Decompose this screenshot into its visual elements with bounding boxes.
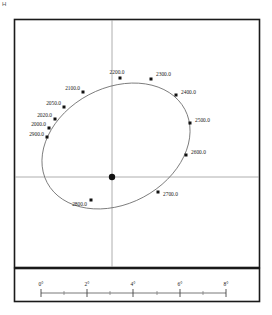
scale-tick-label: 2° xyxy=(85,281,90,287)
epoch-label: 2800.0 xyxy=(72,201,87,207)
epoch-label: 2050.0 xyxy=(46,100,61,106)
epoch-label: 2900.0 xyxy=(29,131,44,137)
epoch-marker xyxy=(46,136,49,139)
epoch-label: 2300.0 xyxy=(156,71,171,77)
orbit-figure: H 2000.02020.02050.02100.02200.02300.024… xyxy=(0,0,272,315)
scale-tick-label: 6° xyxy=(178,281,183,287)
epoch-marker xyxy=(185,154,188,157)
epoch-marker xyxy=(90,199,93,202)
orbit-diagram-svg: 2000.02020.02050.02100.02200.02300.02400… xyxy=(0,0,272,315)
epoch-label: 2100.0 xyxy=(65,85,80,91)
epoch-label: 2200.0 xyxy=(110,69,125,75)
epoch-marker xyxy=(157,191,160,194)
scale-tick-label: 4° xyxy=(131,281,136,287)
epoch-marker xyxy=(48,127,51,130)
plot-panel-border xyxy=(15,20,260,268)
epoch-marker xyxy=(189,122,192,125)
epoch-marker xyxy=(119,77,122,80)
epoch-label: 2500.0 xyxy=(195,117,210,123)
epoch-marker xyxy=(63,106,66,109)
epoch-label: 2020.0 xyxy=(37,112,52,118)
scale-tick-label: 0° xyxy=(39,281,44,287)
epoch-label: 2400.0 xyxy=(181,89,196,95)
epoch-marker xyxy=(175,94,178,97)
corner-mark-label: H xyxy=(2,1,6,7)
primary-star-marker xyxy=(109,174,115,180)
epoch-marker xyxy=(54,118,57,121)
epoch-label: 2000.0 xyxy=(31,121,46,127)
epoch-label: 2600.0 xyxy=(191,149,206,155)
epoch-label: 2700.0 xyxy=(163,191,178,197)
epoch-marker xyxy=(150,78,153,81)
epoch-marker xyxy=(82,91,85,94)
scale-tick-label: 8° xyxy=(224,281,229,287)
